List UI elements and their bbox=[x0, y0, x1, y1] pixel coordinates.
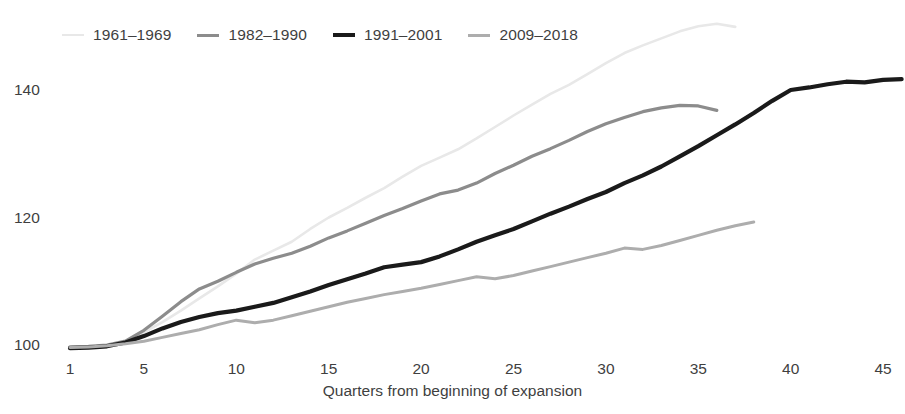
y-axis-tick-label: 140 bbox=[14, 81, 60, 99]
chart-container: 1961–19691982–19901991–20012009–2018 100… bbox=[0, 0, 905, 414]
series-line bbox=[70, 105, 717, 347]
chart-plot-area bbox=[0, 0, 905, 414]
y-axis-tick-label: 120 bbox=[14, 209, 60, 227]
series-group bbox=[70, 24, 902, 348]
x-axis-title: Quarters from beginning of expansion bbox=[0, 382, 905, 400]
y-axis-tick-label: 100 bbox=[14, 336, 60, 354]
y-axis: 100120140 bbox=[14, 0, 60, 414]
series-line bbox=[70, 79, 902, 348]
series-line bbox=[70, 24, 735, 348]
series-line bbox=[70, 222, 754, 348]
